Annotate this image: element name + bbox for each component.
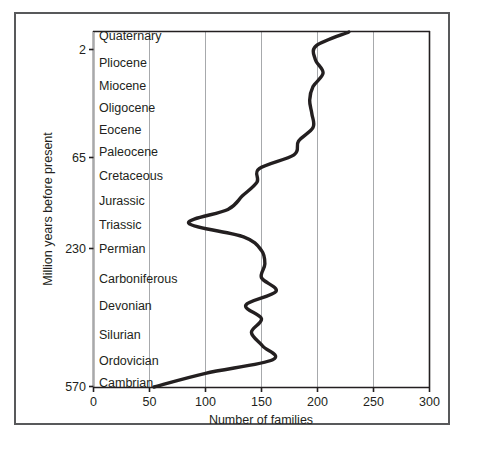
x-axis-title: Number of families [209, 413, 313, 427]
period-label-triassic: Triassic [99, 218, 142, 232]
period-label-silurian: Silurian [99, 328, 141, 342]
period-label-devonian: Devonian [99, 299, 152, 313]
ytick-label-2: 2 [79, 43, 86, 57]
period-label-eocene: Eocene [99, 123, 141, 137]
xtick-label-50: 50 [143, 395, 157, 409]
period-label-pliocene: Pliocene [99, 56, 147, 70]
xtick-label-300: 300 [419, 395, 440, 409]
xtick-label-0: 0 [90, 395, 97, 409]
y-axis-title: Million years before present [41, 132, 55, 286]
period-label-oligocene: Oligocene [99, 101, 155, 115]
period-label-paleocene: Paleocene [99, 145, 158, 159]
period-label-ordovician: Ordovician [99, 354, 159, 368]
x-gridlines [150, 32, 374, 387]
xtick-label-150: 150 [251, 395, 272, 409]
period-label-carboniferous: Carboniferous [99, 272, 178, 286]
ytick-label-65: 65 [72, 151, 86, 165]
period-label-miocene: Miocene [99, 79, 146, 93]
ytick-label-230: 230 [65, 242, 86, 256]
diversity-curve [154, 32, 349, 387]
xtick-label-200: 200 [307, 395, 328, 409]
period-label-jurassic: Jurassic [99, 194, 145, 208]
period-label-cambrian: Cambrian [99, 376, 153, 390]
period-label-quaternary: Quaternary [99, 29, 162, 43]
x-tick-labels: 0 50 100 150 200 250 300 [90, 395, 440, 409]
period-label-permian: Permian [99, 242, 146, 256]
xtick-label-100: 100 [195, 395, 216, 409]
y-tick-labels: 2 65 230 570 [65, 43, 86, 394]
ytick-label-570: 570 [65, 380, 86, 394]
xtick-label-250: 250 [363, 395, 384, 409]
period-label-cretaceous: Cretaceous [99, 169, 163, 183]
period-label-column: Quaternary Pliocene Miocene Oligocene Eo… [99, 29, 178, 390]
diversity-through-time-chart: Quaternary Pliocene Miocene Oligocene Eo… [0, 0, 479, 450]
